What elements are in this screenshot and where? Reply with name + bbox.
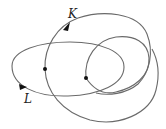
- marked-point-b: [84, 76, 88, 80]
- link-diagram: K L: [0, 0, 166, 129]
- l-direction-arrow-icon: [19, 84, 27, 90]
- label-k: K: [67, 7, 78, 21]
- marked-point-a: [43, 67, 47, 71]
- curve-k-inner: [86, 37, 149, 93]
- curve-k-lower: [45, 49, 158, 122]
- curve-l: [12, 42, 124, 96]
- curve-k-outer: [45, 14, 151, 95]
- label-l: L: [23, 92, 32, 106]
